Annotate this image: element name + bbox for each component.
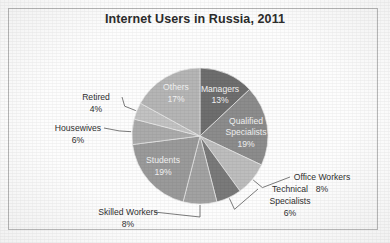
slice-label: Specialists	[269, 196, 310, 206]
slice-label: 13%	[211, 95, 229, 105]
slice-label: 19%	[237, 139, 255, 149]
leader-line	[104, 128, 131, 132]
slice-label: Skilled Workers	[98, 207, 158, 217]
slice-label: 6%	[72, 135, 85, 145]
slice-label: Qualified	[229, 116, 263, 126]
slice-label: 8%	[122, 219, 135, 229]
slice-label: Specialists	[225, 127, 266, 137]
leader-line	[154, 205, 200, 217]
slice-label: Technical	[272, 184, 308, 194]
slice-label: Housewives	[55, 123, 101, 133]
slice-label: 19%	[154, 167, 172, 177]
slice-label: Retired	[82, 92, 110, 102]
pie-chart: Managers13%QualifiedSpecialists19%Office…	[0, 0, 390, 243]
slice-label: 6%	[284, 208, 297, 218]
slice-label: Others	[163, 82, 189, 92]
slice-label: Managers	[201, 84, 239, 94]
slice-label: Office Workers	[294, 172, 351, 182]
pie-chart-svg: Managers13%QualifiedSpecialists19%Office…	[0, 0, 390, 243]
leader-line	[122, 97, 136, 111]
slice-label: Students	[146, 155, 180, 165]
slice-label: 17%	[167, 94, 185, 104]
slice-label: 4%	[90, 104, 103, 114]
slice-label: 8%	[316, 184, 329, 194]
